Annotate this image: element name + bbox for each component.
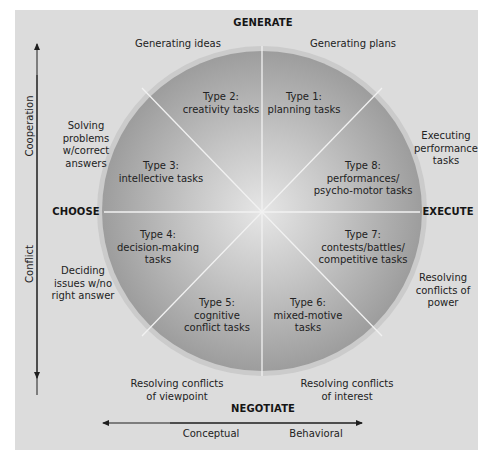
pole-choose: CHOOSE xyxy=(52,206,99,219)
label-executing-performance: Executing performance tasks xyxy=(414,130,478,168)
circumplex-diagram xyxy=(0,0,488,463)
segment-type-5: Type 5: cognitive conflict tasks xyxy=(184,297,250,335)
axis-label-behavioral: Behavioral xyxy=(289,428,342,441)
segment-type-1: Type 1: planning tasks xyxy=(268,91,341,116)
label-generating-plans: Generating plans xyxy=(310,38,396,51)
axis-label-cooperation: Cooperation xyxy=(24,95,35,156)
segment-type-8: Type 8: performances/ psycho-motor tasks xyxy=(314,160,413,198)
segment-type-2: Type 2: creativity tasks xyxy=(183,91,259,116)
pole-negotiate: NEGOTIATE xyxy=(231,403,295,416)
label-resolving-interest: Resolving conflicts of interest xyxy=(301,378,394,403)
segment-type-4: Type 4: decision-making tasks xyxy=(117,229,199,267)
label-generating-ideas: Generating ideas xyxy=(135,38,221,51)
segment-type-3: Type 3: intellective tasks xyxy=(119,160,204,185)
pole-execute: EXECUTE xyxy=(422,206,473,219)
label-deciding-issues: Deciding issues w/no right answer xyxy=(52,265,115,303)
axis-label-conflict: Conflict xyxy=(24,245,35,283)
segment-type-7: Type 7: contests/battles/ competitive ta… xyxy=(319,229,408,267)
label-resolving-power: Resolving conflicts of power xyxy=(416,272,470,310)
segment-type-6: Type 6: mixed-motive tasks xyxy=(274,297,343,335)
axis-label-conceptual: Conceptual xyxy=(183,428,240,441)
pole-generate: GENERATE xyxy=(233,17,292,30)
label-resolving-viewpoint: Resolving conflicts of viewpoint xyxy=(131,378,224,403)
label-solving-problems: Solving problems w/correct answers xyxy=(63,120,110,170)
